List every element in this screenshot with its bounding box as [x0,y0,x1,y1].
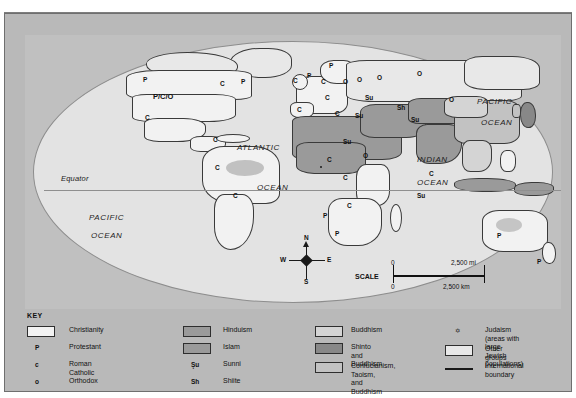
map-religion-marker: Su [355,113,363,120]
world-map-panel: Equator ATLANTICOCEANPACIFICOCEANPACIFIC… [25,35,561,309]
map-plate: Equator ATLANTICOCEANPACIFICOCEANPACIFIC… [4,13,572,392]
scale-km-max: 2,500 km [443,283,470,290]
landmass-amazon-indigenous [226,160,264,176]
legend-boundary-line-icon [445,368,473,370]
legend-swatch [183,326,211,337]
ocean-label: ATLANTIC [237,143,280,152]
ocean-label: PACIFIC [89,213,124,222]
map-religion-marker: O [449,97,454,104]
legend-letter-marker: P [35,344,39,351]
map-religion-marker: Su [343,139,351,146]
legend-title: KEY [27,312,43,319]
landmass-philippines [500,150,516,172]
compass-rose: N S W E [283,235,331,287]
scale-miles-max: 2,500 mi [451,259,476,266]
map-religion-marker: P/C/O [153,93,173,101]
map-religion-marker: C [429,171,434,178]
star-of-david-icon: ✡ [455,327,460,335]
map-religion-marker: P [241,79,245,86]
map-page: Equator ATLANTICOCEANPACIFICOCEANPACIFIC… [0,0,576,398]
map-religion-marker: C [347,203,352,210]
map-religion-marker: C [220,81,225,88]
legend-swatch [315,362,343,373]
scale-tick-end [484,265,485,283]
map-religion-marker: O [377,75,382,82]
legend-label: Christianity [69,326,104,335]
legend-letter-marker: Şu [191,361,199,368]
map-religion-marker: C [297,107,302,114]
legend-swatch [27,326,55,337]
legend-swatch [445,345,473,356]
compass-label-west: W [280,256,286,263]
legend-swatch [183,343,211,354]
map-religion-marker: P [329,63,333,70]
map-religion-marker: P [537,259,541,266]
scale-label: SCALE [355,273,379,280]
legend-label: Orthodox [69,377,98,386]
map-religion-marker: C [327,157,332,164]
map-religion-marker: C [321,79,326,86]
legend-letter-marker: c [35,361,39,368]
equator-label: Equator [61,174,89,183]
map-legend: KEY ChristianityPProtestantcRoman Cathol… [25,314,561,388]
compass-north-arrow-icon [303,241,309,247]
legend-label: International boundary [485,362,524,379]
landmass-korea [512,104,521,118]
compass-label-north: N [304,234,309,241]
ocean-label: OCEAN [481,118,512,127]
map-religion-marker: Sh [397,105,405,112]
map-religion-marker: O [417,71,422,78]
map-religion-marker: P [497,233,501,240]
map-religion-marker: C [233,193,238,200]
legend-label: Hinduism [223,326,252,335]
compass-label-south: S [304,278,308,285]
map-religion-marker: C [215,165,220,172]
legend-letter-marker: o [35,378,39,385]
map-religion-marker: Su [417,193,425,200]
scale-km-zero: 0 [391,283,395,290]
landmass-southern-cone [214,194,254,250]
landmass-new-guinea [514,182,554,196]
legend-label: Sunni [223,360,241,369]
map-religion-marker: Su [411,117,419,124]
map-religion-marker: C [213,137,218,144]
legend-label: Shiite [223,377,241,386]
ocean-label: OCEAN [91,231,122,240]
legend-label: Protestant [69,343,101,352]
landmass-southern-africa [328,198,382,246]
landmass-caribbean [216,134,250,143]
map-religion-marker: C [325,95,330,102]
map-religion-marker: P [335,231,339,238]
map-religion-marker: O [363,153,368,160]
ocean-label: INDIAN [417,155,448,164]
legend-label: Confucianism, Taoism,and Buddhism [351,362,395,396]
legend-label: Buddhism [351,326,382,335]
map-religion-marker: C [335,111,340,118]
landmass-siberia-east [464,56,540,90]
equator-line [44,190,561,191]
scale-bar: SCALE 0 2,500 mi 0 2,500 km [355,261,505,295]
compass-label-east: E [327,256,331,263]
map-religion-marker: P [307,73,311,80]
map-religion-marker: O [357,77,362,84]
landmass-southeast-asia [462,140,492,172]
map-religion-marker: P [323,213,327,220]
ocean-label: OCEAN [417,178,448,187]
landmass-central-africa [320,166,322,168]
landmass-new-zealand [542,242,556,264]
scale-tick-start [393,265,394,283]
map-religion-marker: C [293,78,298,85]
landmass-japan [520,102,536,128]
landmass-australia-interior [496,218,522,232]
legend-swatch [315,343,343,354]
legend-label: Roman Catholic [69,360,94,377]
scale-bar-line [393,275,485,277]
legend-swatch [315,326,343,337]
scale-miles-zero: 0 [391,259,395,266]
ocean-label: OCEAN [257,183,288,192]
legend-letter-marker: Sh [191,378,199,385]
map-religion-marker: C [145,115,150,122]
map-religion-marker: Su [365,95,373,102]
landmass-madagascar [390,204,402,232]
map-religion-marker: O [343,79,348,86]
